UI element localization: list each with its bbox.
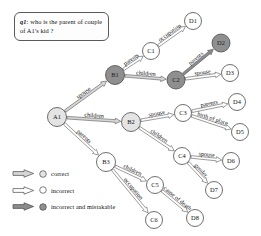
node-b1[interactable]: B1 [106, 66, 125, 85]
node-c2[interactable]: C2 [167, 71, 185, 89]
node-c3[interactable]: C3 [175, 105, 192, 122]
legend-arrow-correct [12, 169, 35, 178]
node-d1[interactable]: D1 [185, 13, 202, 30]
node-label-d3: D3 [226, 69, 234, 76]
node-label-c5: C5 [151, 181, 158, 188]
node-d2[interactable]: D2 [212, 34, 230, 52]
node-c1[interactable]: C1 [143, 43, 160, 60]
question-id: q1 [20, 18, 27, 25]
legend-node-incorrect [39, 186, 47, 194]
node-label-b2: B2 [127, 118, 134, 125]
edge-a1-b3 [64, 123, 99, 155]
node-d3[interactable]: D3 [222, 65, 239, 82]
node-a1[interactable]: A1 [48, 108, 67, 127]
node-label-d7: D7 [210, 186, 219, 193]
node-c5[interactable]: C5 [147, 177, 164, 194]
legend-item-mistakable: incorrect and mistakable [12, 201, 115, 212]
node-label-d2: D2 [217, 39, 225, 46]
node-label-d4: D4 [233, 98, 242, 105]
node-label-d1: D1 [189, 17, 197, 24]
legend-label-incorrect: incorrect [51, 187, 74, 194]
legend-arrow-mistakable [12, 202, 35, 211]
node-label-c1: C1 [147, 47, 154, 54]
node-d4[interactable]: D4 [229, 94, 246, 111]
edge-b3-c6 [111, 169, 148, 213]
legend-label-mistakable: incorrect and mistakable [51, 203, 115, 210]
legend-node-correct [39, 170, 47, 178]
diagram-canvas: spousechildrenparentsparentschildrenspou… [0, 0, 261, 236]
edge-a1-b1 [64, 81, 106, 112]
node-label-d8: D8 [191, 214, 199, 221]
node-label-c2: C2 [172, 76, 179, 83]
node-d6[interactable]: D6 [223, 153, 240, 170]
node-label-c3: C3 [179, 109, 186, 116]
legend: correct incorrect incorrect and mistakab… [12, 168, 115, 212]
legend-label-correct: correct [51, 170, 69, 177]
node-c6[interactable]: C6 [146, 212, 163, 229]
node-label-a1: A1 [53, 113, 61, 120]
node-label-c6: C6 [150, 216, 157, 223]
node-d5[interactable]: D5 [232, 124, 249, 141]
node-d7[interactable]: D7 [206, 182, 223, 199]
node-d8[interactable]: D8 [187, 210, 204, 227]
legend-node-mistakable [39, 203, 47, 211]
node-label-c4: C4 [178, 152, 186, 159]
edge-label-c5-d8: cause of death [162, 185, 192, 211]
legend-item-correct: correct [12, 168, 115, 179]
node-label-b3: B3 [102, 158, 109, 165]
node-c4[interactable]: C4 [174, 148, 191, 165]
node-b2[interactable]: B2 [122, 113, 141, 132]
question-box: q1: who is the parent of couple of A1's … [14, 12, 109, 41]
legend-item-incorrect: incorrect [12, 185, 115, 196]
node-label-d6: D6 [227, 157, 235, 164]
question-text: : who is the parent of couple of A1's ki… [20, 18, 102, 34]
legend-arrow-incorrect [12, 186, 35, 195]
node-label-d5: D5 [236, 128, 244, 135]
node-label-b1: B1 [111, 71, 118, 78]
